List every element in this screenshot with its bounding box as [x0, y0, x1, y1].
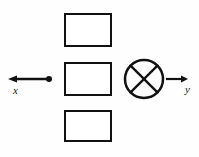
diagram-vectors: [0, 0, 199, 157]
y-axis-vector: [166, 76, 188, 83]
x-axis-vector: [8, 76, 52, 83]
x-axis-endpoint-dot-icon: [46, 76, 52, 82]
x-axis-label: x: [13, 85, 18, 96]
y-axis-label: y: [185, 84, 190, 95]
y-axis-arrowhead-icon: [181, 76, 188, 83]
crossed-circle-icon: [125, 60, 163, 98]
x-axis-arrowhead-icon: [8, 76, 17, 83]
physics-diagram: x y: [0, 0, 199, 157]
